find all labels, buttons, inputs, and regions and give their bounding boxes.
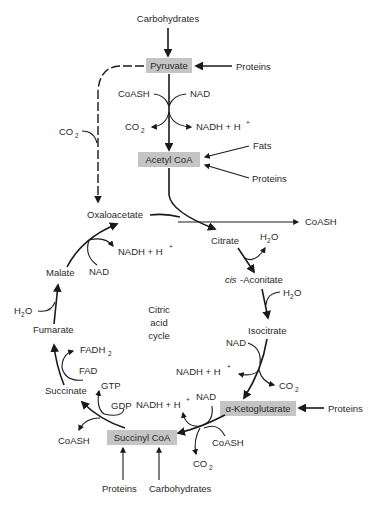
h2o-aconitate-curve (266, 292, 280, 305)
fumarate-label: Fumarate (33, 324, 74, 335)
cis-prefix-label: cis (225, 274, 237, 285)
arrow-proteins-acetylcoa (205, 165, 249, 178)
arrow-fadh2 (62, 351, 73, 368)
alpha-ketoglutarate-label: α-Ketoglutarate (225, 403, 290, 414)
nad-malate-label: NAD (89, 266, 109, 277)
coash-out-label: CoASH (305, 216, 337, 227)
gtp-label: GTP (101, 380, 121, 391)
co2-dashed-label: CO (59, 126, 73, 137)
nad-akg-curve (201, 406, 212, 426)
aconitate-label: -Aconitate (240, 274, 283, 285)
coash-akg-curve (204, 426, 225, 436)
h2o-fumarate-curve (38, 302, 55, 311)
h2o-citrate-o: O (271, 231, 278, 242)
arrow-co2-isocitrate (259, 370, 274, 385)
co2-isocitrate-label: CO (279, 380, 293, 391)
arrow-akg-succinylcoa (178, 415, 225, 433)
arrow-h2o-citrate-out (245, 248, 265, 260)
nadh-pyruvate-sup: + (246, 119, 250, 126)
line-oxaloacetate-merge (150, 214, 180, 217)
center-label-line3: cycle (148, 330, 170, 341)
carbohydrates-succinyl-label: Carbohydrates (149, 483, 212, 494)
nadh-malate-sup: + (169, 243, 173, 250)
proteins-acetyl-label: Proteins (252, 173, 287, 184)
co2-isocitrate-sub: 2 (295, 386, 299, 393)
proteins-pyruvate-label: Proteins (236, 61, 271, 72)
arrow-nadh-akg (183, 413, 201, 426)
coash-in-curve (154, 94, 169, 106)
h2o-aconitate-label: H (283, 287, 290, 298)
nadh-akg-sup: + (186, 396, 190, 403)
h2o-aconitate-o: O (294, 287, 301, 298)
center-label-line2: acid (150, 317, 167, 328)
arrow-nadh-malate (89, 239, 113, 246)
citric-acid-cycle-diagram: Carbohydrates Pyruvate Proteins CO 2 CoA… (0, 0, 378, 506)
coash-succinate-label: CoASH (58, 435, 90, 446)
pyruvate-label: Pyruvate (150, 60, 188, 71)
oxaloacetate-label: Oxaloacetate (87, 209, 143, 220)
co2-pyruvate-label: CO (125, 121, 139, 132)
fadh2-label: FADH (80, 344, 105, 355)
succinate-label: Succinate (45, 385, 87, 396)
arrow-coash-succinate (79, 418, 100, 430)
nad-pyruvate-label: NAD (190, 88, 210, 99)
fats-label: Fats (253, 140, 272, 151)
acetyl-coa-label: Acetyl CoA (146, 154, 194, 165)
gdp-label: GDP (111, 400, 132, 411)
isocitrate-label: Isocitrate (248, 325, 287, 336)
arrow-nadh-pyruvate (169, 112, 191, 127)
nad-isocitrate-label: NAD (226, 337, 246, 348)
fad-label: FAD (79, 365, 98, 376)
h2o-citrate-label: H (260, 231, 267, 242)
nadh-malate-label: NADH + H (118, 246, 163, 257)
h2o-fumarate-o: O (25, 305, 32, 316)
nadh-isocitrate-label: NADH + H (176, 366, 221, 377)
arrow-co2-pyruvate (152, 112, 169, 127)
arrow-fumarate-malate (54, 285, 58, 324)
citrate-label: Citrate (211, 235, 239, 246)
dashed-arrow-pyruvate-oxaloacetate (98, 66, 144, 202)
succinyl-coa-label: Succinyl CoA (114, 432, 171, 443)
nadh-isocitrate-sup: + (227, 363, 231, 370)
co2-dashed-curve (82, 131, 97, 143)
co2-akg-label: CO (193, 458, 207, 469)
arrow-co2-akg (195, 428, 200, 454)
nad-isocitrate-curve (248, 343, 260, 364)
arrow-gtp (98, 391, 104, 414)
nad-malate-curve (88, 240, 97, 265)
nad-akg-label: NAD (196, 391, 216, 402)
coash-in-label: CoASH (118, 88, 150, 99)
carbohydrates-top-label: Carbohydrates (137, 13, 200, 24)
nadh-akg-label: NADH + H (136, 399, 181, 410)
proteins-akg-label: Proteins (328, 403, 363, 414)
h2o-fumarate-label: H (14, 305, 21, 316)
fadh2-sub: 2 (108, 350, 112, 357)
nad-pyruvate-curve (169, 94, 186, 106)
nadh-pyruvate-label: NADH + H (196, 121, 241, 132)
arrow-aconitate-isocitrate (262, 289, 268, 318)
co2-pyruvate-sub: 2 (141, 127, 145, 134)
center-label-line1: Citric (148, 304, 170, 315)
proteins-succinyl-label: Proteins (102, 483, 137, 494)
arrow-acetylcoa-citrate (169, 168, 215, 229)
co2-dashed-sub: 2 (75, 132, 79, 139)
arrow-fats-acetylcoa (205, 146, 249, 157)
malate-label: Malate (46, 267, 75, 278)
coash-akg-label: CoASH (212, 437, 244, 448)
co2-akg-sub: 2 (209, 464, 213, 471)
